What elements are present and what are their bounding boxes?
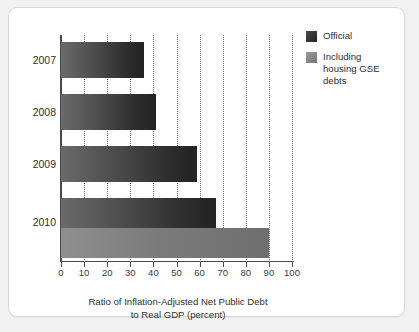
legend-swatch-official-icon — [306, 31, 317, 42]
ylabel-2009: 2009 — [10, 158, 56, 170]
xtick-label-100: 100 — [277, 267, 307, 278]
bar-2007-official[interactable] — [61, 42, 144, 78]
bar-2008-official[interactable] — [61, 94, 156, 130]
gridline-90 — [269, 35, 271, 262]
bar-2009-official[interactable] — [61, 146, 197, 182]
ylabel-2007: 2007 — [10, 54, 56, 66]
legend-item-including-housing-gse-debts[interactable]: Including housing GSE debts — [306, 51, 402, 87]
legend-label-gse: Including housing GSE debts — [323, 51, 380, 87]
legend-label-official: Official — [323, 30, 352, 42]
legend-label-gse-line1: Including — [323, 51, 380, 63]
bar-2010-including-housing-gse-debts[interactable] — [61, 228, 269, 258]
figure-container: 0 10 20 30 40 50 60 70 80 90 100 2007 20… — [0, 0, 419, 332]
chart-panel: 0 10 20 30 40 50 60 70 80 90 100 2007 20… — [8, 7, 405, 317]
plot-area: 0 10 20 30 40 50 60 70 80 90 100 — [61, 35, 292, 262]
x-axis-title-line1: Ratio of Inflation-Adjusted Net Public D… — [45, 296, 311, 309]
legend-swatch-gse-icon — [306, 52, 317, 63]
legend-label-gse-line2: housing GSE — [323, 63, 380, 75]
gridline-100 — [292, 35, 294, 262]
x-axis-title-line2: to Real GDP (percent) — [45, 309, 311, 322]
legend-label-gse-line3: debts — [323, 75, 380, 87]
legend: Official Including housing GSE debts — [306, 30, 402, 96]
ylabel-2008: 2008 — [10, 106, 56, 118]
bar-2010-official[interactable] — [61, 198, 216, 228]
legend-item-official[interactable]: Official — [306, 30, 402, 42]
ylabel-2010: 2010 — [10, 216, 56, 228]
x-axis-title: Ratio of Inflation-Adjusted Net Public D… — [45, 296, 311, 321]
